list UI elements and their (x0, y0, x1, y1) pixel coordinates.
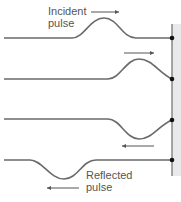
string-frame-1 (4, 18, 172, 38)
arrow-head-right-2 (150, 51, 154, 55)
fixed-end-dot-3 (170, 118, 175, 123)
arrow-head-right-1 (115, 10, 119, 14)
reflected-label-line2: pulse (86, 181, 112, 193)
fixed-end-dot-1 (170, 36, 175, 41)
string-frame-3 (4, 119, 172, 139)
arrow-head-left-3 (122, 144, 126, 148)
reflection-diagram: Incident pulse Reflected pulse (0, 0, 181, 202)
fixed-end-dot-2 (170, 77, 175, 82)
reflected-label-line1: Reflected (86, 169, 132, 181)
incident-label-line1: Incident (48, 5, 87, 17)
fixed-end-dot-4 (170, 158, 175, 163)
wall-shading (172, 24, 181, 176)
arrow-head-left-4 (47, 186, 51, 190)
incident-label-line2: pulse (48, 17, 74, 29)
string-frame-2 (4, 59, 172, 79)
